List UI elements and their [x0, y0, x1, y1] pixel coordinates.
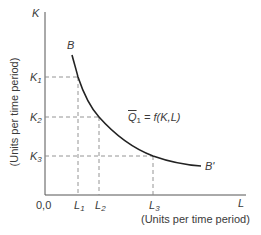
- x-tick-l3: L3: [149, 200, 160, 213]
- curve-end-label: B': [205, 161, 214, 172]
- origin-label: 0,0: [36, 200, 51, 211]
- x-axis-letter: L: [238, 198, 244, 209]
- y-axis-letter: K: [32, 8, 39, 19]
- y-tick-k2: K2: [30, 112, 42, 125]
- isoquant-equation: Q1 = f(K,L): [128, 112, 180, 125]
- x-axis-caption: (Units per time period): [141, 214, 250, 225]
- curve-start-label: B: [67, 40, 74, 51]
- y-axis-caption: (Units per time period): [8, 58, 20, 167]
- x-tick-l2: L2: [95, 200, 106, 213]
- y-tick-k3: K3: [30, 151, 42, 164]
- x-tick-l1: L1: [74, 200, 85, 213]
- dashed-reference-lines: [45, 77, 153, 195]
- y-tick-k1: K1: [30, 72, 42, 85]
